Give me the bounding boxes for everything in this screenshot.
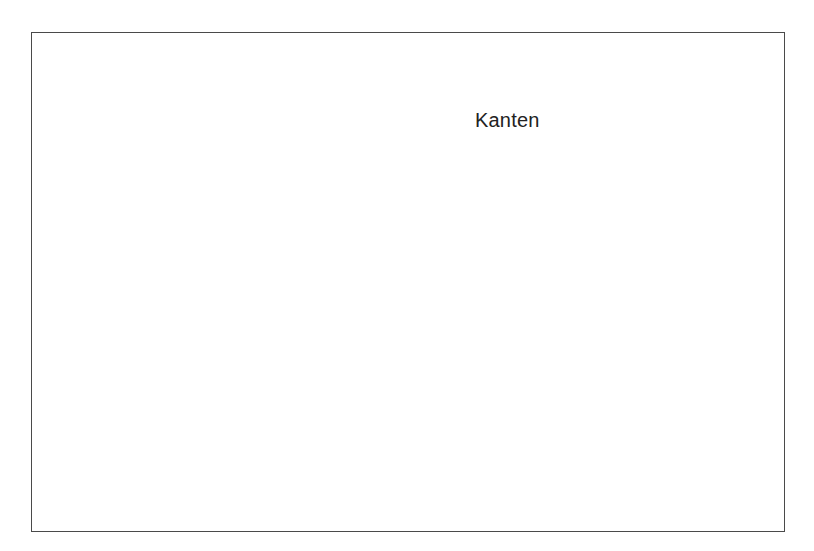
kanten-label: Kanten bbox=[475, 109, 540, 132]
figure-border-frame bbox=[31, 32, 785, 532]
figure-root: Kanten bbox=[0, 0, 814, 551]
